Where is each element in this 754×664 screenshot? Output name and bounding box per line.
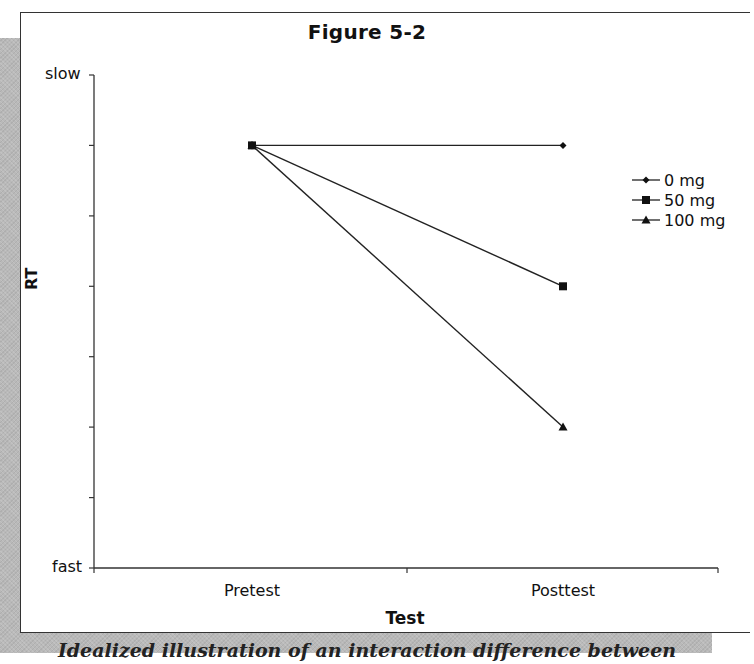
y-tick-label-bottom: fast — [52, 557, 82, 576]
triangle-marker-icon — [631, 214, 661, 226]
x-axis-label: Test — [0, 608, 754, 628]
square-marker-icon — [631, 194, 661, 206]
y-axis-label: RT — [22, 267, 41, 290]
y-ticks — [89, 75, 94, 568]
x-tick-label-posttest: Posttest — [503, 581, 623, 600]
series-line-50mg — [252, 145, 563, 286]
diamond-marker-icon — [560, 142, 567, 149]
x-ticks — [94, 568, 718, 573]
legend-label: 100 mg — [664, 211, 725, 230]
legend-item-50mg: 50 mg — [631, 190, 725, 210]
square-marker-icon — [559, 282, 567, 290]
x-tick-label-pretest: Pretest — [192, 581, 312, 600]
legend-item-100mg: 100 mg — [631, 210, 725, 230]
legend-label: 50 mg — [664, 191, 715, 210]
y-tick-label-top: slow — [45, 64, 81, 83]
diamond-marker-icon — [631, 174, 661, 186]
series-line-100mg — [252, 145, 563, 427]
chart-legend: 0 mg 50 mg 100 mg — [631, 170, 725, 230]
legend-label: 0 mg — [664, 171, 705, 190]
figure-caption: Idealized illustration of an interaction… — [0, 636, 734, 664]
legend-item-0mg: 0 mg — [631, 170, 725, 190]
